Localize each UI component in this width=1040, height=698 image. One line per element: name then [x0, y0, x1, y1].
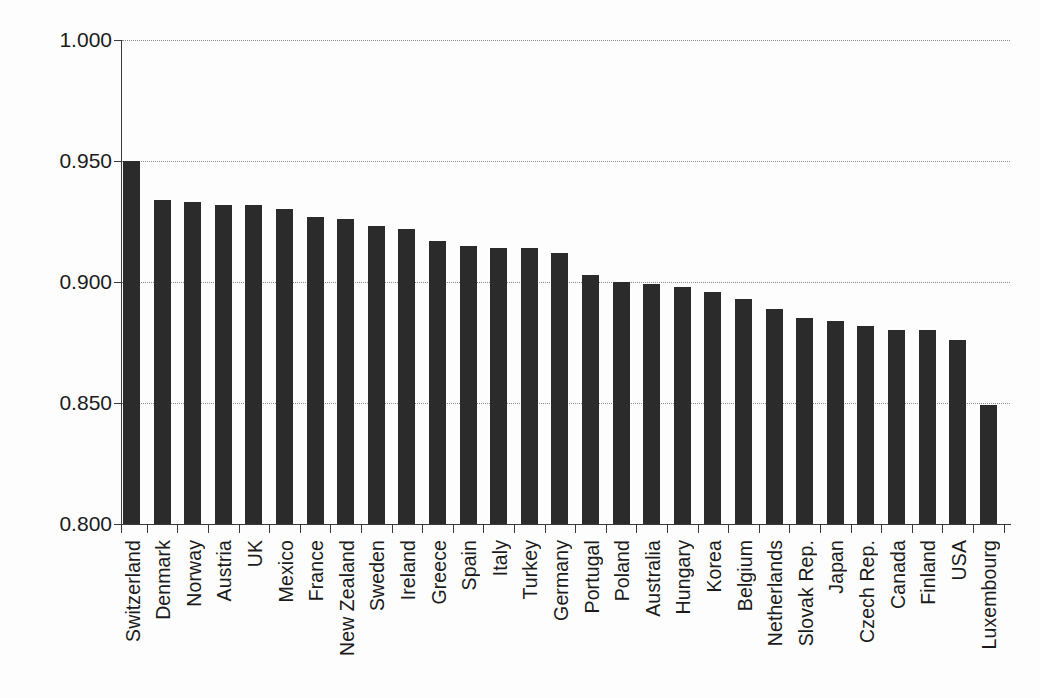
bar	[735, 299, 752, 524]
x-tick-label: Sweden	[366, 540, 389, 611]
x-tick-label: Czech Rep.	[856, 540, 879, 643]
y-tick-label: 0.900	[0, 270, 122, 294]
bar	[490, 248, 507, 524]
bar	[582, 275, 599, 524]
x-tick-mark	[942, 524, 943, 533]
x-tick-label: Turkey	[519, 540, 542, 599]
bar	[276, 209, 293, 524]
x-tick-label: UK	[244, 540, 267, 567]
x-tick-label: Italy	[489, 540, 512, 576]
bar	[429, 241, 446, 524]
bar	[704, 292, 721, 524]
bar	[123, 161, 140, 524]
x-tick-mark	[330, 524, 331, 533]
x-tick-label: Switzerland	[122, 540, 145, 642]
x-axis-line	[121, 524, 1011, 525]
x-tick-label: Poland	[611, 540, 634, 601]
x-tick-mark	[912, 524, 913, 533]
x-tick-label: Denmark	[152, 540, 175, 620]
x-tick-label: Finland	[917, 540, 940, 605]
bar	[888, 330, 905, 524]
bar	[766, 309, 783, 524]
bar	[674, 287, 691, 524]
x-tick-label: France	[305, 540, 328, 601]
x-tick-mark	[606, 524, 607, 533]
x-tick-label: Belgium	[734, 540, 757, 611]
x-tick-label: Hungary	[672, 540, 695, 614]
x-tick-label: Germany	[550, 540, 573, 621]
bar-chart-figure: 0.8000.8500.9000.9501.000 SwitzerlandDen…	[0, 0, 1040, 698]
x-tick-mark	[636, 524, 637, 533]
x-tick-label: Ireland	[397, 540, 420, 600]
bar	[460, 246, 477, 524]
bar	[398, 229, 415, 524]
y-tick-label: 0.950	[0, 149, 122, 173]
x-tick-mark	[789, 524, 790, 533]
x-tick-mark	[851, 524, 852, 533]
x-tick-mark	[453, 524, 454, 533]
x-tick-mark	[1004, 524, 1005, 533]
bar	[919, 330, 936, 524]
x-tick-mark	[698, 524, 699, 533]
bar	[857, 326, 874, 524]
x-tick-mark	[759, 524, 760, 533]
bar	[521, 248, 538, 524]
x-tick-mark	[575, 524, 576, 533]
y-tick-label: 0.800	[0, 512, 122, 536]
x-tick-mark	[147, 524, 148, 533]
x-tick-label: Spain	[458, 540, 481, 590]
y-tick-label: 1.000	[0, 28, 122, 52]
x-tick-mark	[392, 524, 393, 533]
x-tick-mark	[177, 524, 178, 533]
bar	[643, 284, 660, 524]
x-tick-label: Netherlands	[764, 540, 787, 646]
x-tick-mark	[269, 524, 270, 533]
x-tick-mark	[300, 524, 301, 533]
x-tick-label: USA	[948, 540, 971, 580]
x-tick-label: Luxembourg	[978, 540, 1001, 649]
x-tick-mark	[121, 524, 122, 533]
x-tick-mark	[667, 524, 668, 533]
x-tick-label: Mexico	[275, 540, 298, 602]
bar	[337, 219, 354, 524]
plot-area	[122, 40, 1010, 524]
x-tick-label: Austria	[213, 540, 236, 601]
x-tick-mark	[483, 524, 484, 533]
x-tick-mark	[973, 524, 974, 533]
x-tick-label: New Zealand	[336, 540, 359, 656]
bar	[980, 405, 997, 524]
x-tick-label: Australia	[642, 540, 665, 617]
bar	[613, 282, 630, 524]
x-tick-label: Greece	[428, 540, 451, 605]
x-tick-label: Slovak Rep.	[795, 540, 818, 646]
x-tick-label: Portugal	[581, 540, 604, 613]
x-tick-mark	[361, 524, 362, 533]
bar	[949, 340, 966, 524]
bar	[796, 318, 813, 524]
x-tick-mark	[208, 524, 209, 533]
bar	[184, 202, 201, 524]
bar	[551, 253, 568, 524]
bar	[368, 226, 385, 524]
bar	[215, 205, 232, 524]
bar	[307, 217, 324, 524]
x-tick-label: Canada	[887, 540, 910, 609]
bar	[827, 321, 844, 524]
x-tick-mark	[881, 524, 882, 533]
x-tick-mark	[728, 524, 729, 533]
x-tick-mark	[820, 524, 821, 533]
y-tick-label: 0.850	[0, 391, 122, 415]
x-tick-mark	[422, 524, 423, 533]
x-tick-mark	[514, 524, 515, 533]
x-tick-mark	[239, 524, 240, 533]
bar	[245, 205, 262, 524]
bar	[154, 200, 171, 524]
x-tick-mark	[545, 524, 546, 533]
x-tick-label: Norway	[183, 540, 206, 607]
x-tick-label: Japan	[825, 540, 848, 594]
x-tick-label: Korea	[703, 540, 726, 593]
